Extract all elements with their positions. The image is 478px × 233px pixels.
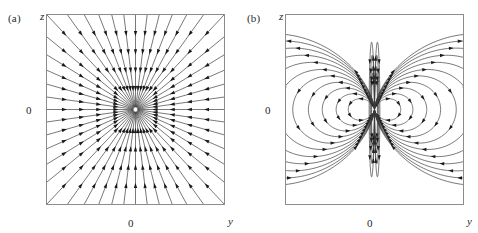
field-arrowhead — [79, 116, 84, 120]
field-arrowhead — [144, 67, 147, 73]
field-arrowhead — [204, 108, 209, 112]
field-arrowhead — [187, 62, 192, 67]
field-line — [375, 62, 463, 156]
field-arrowhead — [286, 40, 291, 43]
field-arrowhead — [126, 164, 129, 170]
field-line — [286, 48, 374, 171]
panel-b-y-tick-zero: 0 — [265, 104, 271, 116]
field-line — [136, 15, 147, 107]
field-arrowhead — [119, 164, 122, 170]
field-arrowhead — [128, 128, 131, 134]
field-arrowhead — [113, 111, 118, 115]
field-arrowhead — [141, 49, 144, 55]
field-line — [47, 111, 133, 182]
field-arrowhead — [113, 105, 118, 109]
field-arrowhead — [61, 63, 66, 67]
field-arrowhead — [336, 115, 340, 120]
field-arrowhead — [134, 128, 137, 133]
field-arrowhead — [204, 129, 209, 132]
field-arrowhead — [131, 86, 134, 92]
field-arrowhead — [150, 146, 153, 152]
field-arrowhead — [414, 141, 419, 144]
field-arrowhead — [61, 166, 66, 171]
field-arrowhead — [62, 108, 67, 112]
field-arrowhead — [386, 97, 391, 100]
panel-a-y-axis-label: z — [40, 10, 44, 22]
field-arrowhead — [128, 86, 131, 92]
panel-a-y-tick-zero: 0 — [26, 104, 32, 116]
field-arrowhead — [153, 105, 158, 109]
field-arrowhead — [62, 87, 67, 90]
field-arrowhead — [79, 92, 84, 95]
field-arrowhead — [170, 97, 175, 100]
field-arrowhead — [304, 54, 309, 57]
field-arrowhead — [137, 86, 140, 92]
field-arrowhead — [126, 49, 129, 55]
panel-a-tag: (a) — [8, 12, 21, 24]
field-arrowhead — [129, 67, 132, 73]
field-arrowhead — [91, 49, 95, 54]
field-line — [47, 15, 134, 107]
field-arrowhead — [414, 74, 419, 77]
field-arrowhead — [374, 158, 377, 163]
field-arrowhead — [165, 49, 169, 55]
field-arrowhead — [140, 128, 143, 134]
field-arrowhead — [134, 164, 137, 169]
field-arrowhead — [122, 86, 126, 92]
field-line — [137, 15, 203, 107]
field-arrowhead — [91, 165, 95, 170]
field-arrowhead — [145, 128, 149, 134]
field-arrowhead — [399, 129, 404, 132]
field-arrowhead — [111, 164, 114, 170]
field-line — [124, 112, 135, 204]
field-arrowhead — [170, 84, 175, 88]
field-arrowhead — [139, 67, 142, 73]
field-arrowhead — [155, 146, 159, 152]
field-arrowhead — [448, 169, 453, 172]
field-arrowhead — [296, 169, 301, 172]
field-arrowhead — [149, 49, 152, 55]
field-arrowhead — [149, 164, 152, 170]
field-arrowhead — [187, 141, 192, 145]
field-arrowhead — [348, 113, 352, 118]
field-arrowhead — [296, 125, 300, 130]
field-arrowhead — [92, 30, 96, 36]
field-arrowhead — [422, 148, 427, 151]
field-arrowhead — [431, 155, 436, 158]
field-arrowhead — [96, 77, 101, 82]
field-arrowhead — [113, 120, 118, 124]
field-arrowhead — [96, 138, 101, 143]
field-arrowhead — [139, 146, 142, 152]
field-arrowhead — [187, 124, 192, 127]
field-arrowhead — [144, 146, 147, 152]
field-line — [47, 37, 133, 108]
field-arrowhead — [187, 100, 192, 104]
field-arrowhead — [96, 97, 101, 100]
field-arrowhead — [352, 92, 357, 95]
field-arrowhead — [153, 102, 158, 105]
field-arrowhead — [96, 113, 101, 117]
field-arrowhead — [144, 31, 147, 37]
field-line — [68, 15, 134, 107]
field-arrowhead — [175, 49, 179, 54]
field-arrowhead — [392, 124, 397, 127]
field-arrowhead — [113, 108, 118, 112]
field-arrowhead — [62, 97, 67, 101]
field-arrowhead — [287, 176, 292, 179]
field-arrowhead — [61, 48, 66, 53]
field-arrowhead — [123, 146, 126, 152]
field-arrowhead — [330, 141, 335, 144]
field-line — [138, 37, 224, 108]
field-arrowhead — [462, 85, 463, 90]
field-arrowhead — [137, 128, 140, 134]
field-arrowhead — [406, 81, 411, 84]
field-arrowhead — [140, 86, 143, 92]
field-arrowhead — [114, 31, 117, 37]
field-arrowhead — [323, 118, 327, 123]
field-arrowhead — [170, 102, 175, 106]
field-arrowhead — [105, 67, 109, 72]
panel-b-plot-area — [285, 14, 464, 205]
field-arrowhead — [175, 183, 179, 189]
field-arrowhead — [124, 183, 127, 189]
field-arrowhead — [134, 49, 137, 54]
